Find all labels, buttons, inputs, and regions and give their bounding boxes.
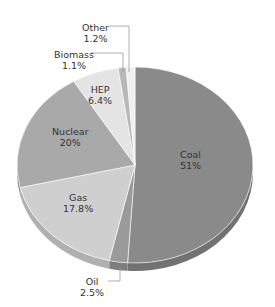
pie-chart xyxy=(0,0,275,307)
label-coal-name: Coal xyxy=(180,149,201,160)
label-hep-pct: 6.4% xyxy=(88,95,112,106)
label-oil-pct: 2.5% xyxy=(80,287,104,298)
label-gas-name: Gas xyxy=(63,192,93,203)
label-biomass-name: Biomass xyxy=(54,49,94,60)
label-gas: Gas 17.8% xyxy=(63,192,93,214)
label-coal-pct: 51% xyxy=(180,160,201,171)
leader-line-other xyxy=(109,26,129,72)
label-hep: HEP 6.4% xyxy=(88,84,112,106)
label-biomass-pct: 1.1% xyxy=(54,60,94,71)
label-coal: Coal 51% xyxy=(180,149,201,171)
label-gas-pct: 17.8% xyxy=(63,203,93,214)
label-oil-name: Oil xyxy=(80,276,104,287)
label-hep-name: HEP xyxy=(88,84,112,95)
label-other: Other 1.2% xyxy=(82,22,109,44)
label-other-pct: 1.2% xyxy=(82,33,109,44)
pie-slices xyxy=(17,67,253,263)
label-other-name: Other xyxy=(82,22,109,33)
label-oil: Oil 2.5% xyxy=(80,276,104,298)
label-nuclear-name: Nuclear xyxy=(52,126,89,137)
label-nuclear-pct: 20% xyxy=(52,137,89,148)
label-biomass: Biomass 1.1% xyxy=(54,49,94,71)
label-nuclear: Nuclear 20% xyxy=(52,126,89,148)
